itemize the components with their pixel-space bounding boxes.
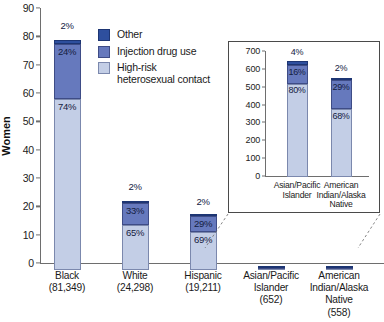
y-axis-line-main [40, 8, 41, 264]
x-category-line: Islander [234, 282, 308, 294]
legend-item: High-risk heterosexual contact [98, 61, 210, 85]
bar-segment [331, 78, 352, 80]
stacked-bar: 65%33% [122, 201, 149, 270]
x-category-label: White(24,298) [98, 270, 172, 294]
x-category-line: Black [30, 270, 104, 282]
y-tick-mark [36, 177, 40, 178]
stacked-bar: 69%29% [190, 216, 217, 270]
x-category-line: (24,298) [98, 282, 172, 294]
x-category-label: AmericanIndian/AlaskaNative [315, 181, 367, 210]
x-category-line: (652) [234, 294, 308, 306]
y-axis-title-main: Women [0, 116, 12, 156]
x-category-line: Native [302, 294, 376, 306]
y-axis-line-inset [265, 51, 266, 177]
y-tick-mark [262, 122, 266, 123]
legend-swatch-other [98, 29, 110, 41]
segment-percent-label: 80% [288, 85, 307, 95]
y-tick-mark [36, 149, 40, 150]
x-category-label: Black(81,349) [30, 270, 104, 294]
y-tick-mark [36, 262, 40, 263]
bar-segment [258, 266, 285, 268]
segment-percent-label: 24% [55, 46, 80, 57]
bar-top-percent-label: 2% [42, 20, 93, 31]
bar-top-percent-label: 2% [110, 181, 161, 192]
y-tick-mark [262, 176, 266, 177]
segment-percent-label: 74% [55, 101, 80, 112]
bar-segment: 74% [54, 99, 81, 270]
stacked-bar: 80%16% [287, 61, 308, 177]
y-tick-mark [262, 104, 266, 105]
legend: OtherInjection drug useHigh-risk heteros… [98, 28, 210, 89]
segment-percent-label: 29% [332, 82, 351, 92]
bar-segment: 29% [190, 216, 217, 232]
bar-segment: 33% [122, 203, 149, 226]
y-tick-mark [262, 51, 266, 52]
legend-label: High-risk heterosexual contact [117, 61, 210, 85]
bar-top-percent-label: 2% [178, 196, 229, 207]
bar-segment [54, 40, 81, 45]
x-category-label: Asian/PacificIslander(652) [234, 270, 308, 307]
y-tick-mark [262, 140, 266, 141]
bar-top-percent-label: 2% [319, 63, 364, 73]
segment-percent-label: 16% [288, 67, 307, 77]
x-category-line: White [98, 270, 172, 282]
x-category-line: (558) [302, 307, 376, 319]
bar-segment [190, 214, 217, 216]
y-tick-mark [36, 7, 40, 8]
y-tick-mark [262, 68, 266, 69]
bar-segment: 69% [190, 232, 217, 270]
inset-panel: 0100200300400500600700 80%16%4%68%29%2% … [228, 41, 380, 213]
segment-percent-label: 65% [123, 227, 148, 238]
y-tick-mark [36, 206, 40, 207]
segment-percent-label: 29% [191, 218, 216, 229]
x-category-line: Asian/Pacific [234, 270, 308, 282]
y-tick-mark [262, 158, 266, 159]
bar-segment [326, 266, 353, 268]
x-category-line: (19,211) [166, 282, 240, 294]
legend-label: Other [117, 28, 142, 40]
y-tick-mark [36, 92, 40, 93]
segment-percent-label: 69% [191, 234, 216, 245]
legend-item: Injection drug use [98, 45, 210, 58]
bar-segment: 80% [287, 84, 308, 177]
x-category-line: Native [315, 200, 367, 210]
stacked-bar: 68%29% [331, 77, 352, 177]
y-tick-mark [36, 121, 40, 122]
bar-top-percent-label: 4% [275, 47, 320, 57]
y-tick-mark [36, 234, 40, 235]
x-category-line: Indian/Alaska [302, 282, 376, 294]
y-tick-mark [36, 36, 40, 37]
y-tick-mark [36, 64, 40, 65]
segment-percent-label: 33% [123, 205, 148, 216]
bar-segment: 65% [122, 225, 149, 270]
legend-swatch-idu [98, 46, 110, 58]
legend-item: Other [98, 28, 210, 41]
x-category-line: Hispanic [166, 270, 240, 282]
legend-label: Injection drug use [117, 45, 196, 57]
bar-segment: 68% [331, 109, 352, 177]
y-tick-mark [262, 86, 266, 87]
x-category-line: (81,349) [30, 282, 104, 294]
x-category-label: Hispanic(19,211) [166, 270, 240, 294]
x-category-line: American [302, 270, 376, 282]
x-axis-line-inset [265, 176, 369, 177]
bar-segment [287, 61, 308, 66]
bar-segment: 29% [331, 80, 352, 109]
segment-percent-label: 68% [332, 111, 351, 121]
legend-swatch-hrh [98, 62, 110, 74]
bar-segment: 16% [287, 65, 308, 84]
stacked-bar: 74%24% [54, 40, 81, 270]
inset-plot-area: 0100200300400500600700 80%16%4%68%29%2% … [265, 51, 369, 177]
bar-segment [122, 201, 149, 203]
x-category-label: AmericanIndian/AlaskaNative(558) [302, 270, 376, 319]
chart-figure: Women 0102030405060708090 74%24%2%65%33%… [0, 0, 384, 322]
bar-segment: 24% [54, 44, 81, 99]
